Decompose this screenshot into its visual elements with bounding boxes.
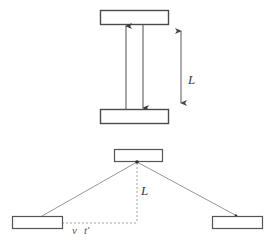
bottom-mirror-left bbox=[13, 217, 63, 229]
velocity-label: v bbox=[72, 224, 77, 236]
bottom-mirror bbox=[101, 110, 169, 124]
rest-frame-panel: L bbox=[101, 11, 196, 124]
moving-frame-panel: L v t' bbox=[13, 150, 263, 237]
light-clock-diagram: L L v t' bbox=[0, 0, 273, 244]
top-mirror bbox=[101, 11, 169, 25]
right-slant-beam bbox=[137, 162, 237, 216]
figure-root: L L v t' bbox=[0, 0, 273, 244]
moving-height-label: L bbox=[140, 183, 148, 198]
bottom-mirror-right bbox=[213, 217, 263, 229]
proper-time-label: t' bbox=[84, 224, 90, 236]
left-slant-beam bbox=[42, 162, 137, 216]
length-dimension-label: L bbox=[187, 72, 195, 87]
top-mirror-moving bbox=[115, 150, 163, 162]
